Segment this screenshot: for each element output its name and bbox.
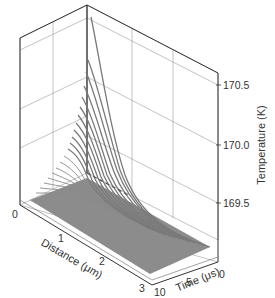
x-tick-2: 2 — [99, 255, 105, 267]
x-axis-label: Distance (μm) — [39, 236, 104, 281]
x-tick-0: 0 — [12, 208, 18, 220]
z-tick-170-5: 170.5 — [223, 79, 249, 91]
z-axis: 170.5 170.0 169.5 Temperature (K) — [216, 79, 267, 209]
y-tick-10: 10 — [154, 286, 166, 298]
surface-chart: 170.5 170.0 169.5 Temperature (K) 0 1 2 … — [0, 0, 275, 298]
x-tick-3: 3 — [139, 282, 145, 294]
z-tick-170-0: 170.0 — [223, 139, 249, 151]
x-tick-1: 1 — [58, 232, 64, 244]
z-tick-169-5: 169.5 — [223, 197, 249, 209]
z-axis-label: Temperature (K) — [255, 105, 267, 184]
time-axis: 0 5 10 Time (μs) — [154, 265, 225, 298]
